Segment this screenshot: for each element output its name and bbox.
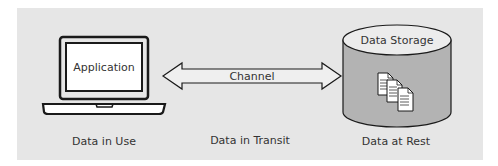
- storage-label: Data Storage: [361, 34, 434, 47]
- channel-label: Channel: [229, 70, 274, 83]
- diagram-canvas: Application Channel Data Storage: [0, 0, 498, 166]
- data-in-transit-caption: Data in Transit: [210, 134, 290, 147]
- data-at-rest-caption: Data at Rest: [362, 135, 431, 148]
- application-label: Application: [73, 61, 134, 74]
- laptop-icon: [43, 37, 165, 114]
- data-in-use-caption: Data in Use: [72, 135, 136, 148]
